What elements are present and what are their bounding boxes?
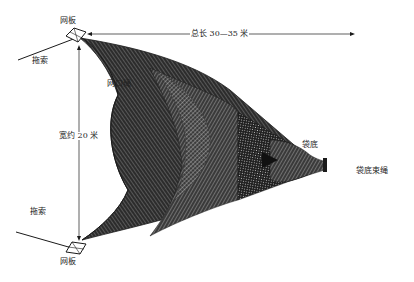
label-otter-board-bottom: 网板: [60, 258, 76, 266]
label-codend-tie: 袋底束绳: [356, 167, 388, 175]
trawl-net-diagram: 网板 拖索 网口绳 总长 30—35 米 宽约 20 米 拖索 网板 袋底 袋底…: [0, 0, 414, 282]
label-headline: 网口绳: [107, 80, 131, 88]
otter-board-bottom: [66, 242, 86, 254]
length-arrow-right: [350, 32, 355, 36]
warp-bottom-line: [16, 232, 72, 248]
label-total-length: 总长 30—35 米: [190, 30, 249, 38]
label-width: 宽约 20 米: [58, 132, 99, 140]
length-arrow-left: [87, 32, 92, 36]
width-arrow-top: [77, 45, 81, 50]
label-otter-board-top: 网板: [60, 17, 76, 25]
label-warp-bottom: 拖索: [30, 208, 46, 216]
codend-tie: [323, 158, 327, 172]
label-codend: 袋底: [302, 141, 318, 149]
width-arrow-bottom: [77, 236, 81, 241]
net-drawing: [0, 0, 414, 282]
label-warp-top: 拖索: [32, 57, 48, 65]
